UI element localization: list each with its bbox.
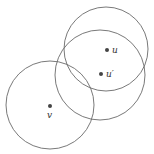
label-u-prime: u′ <box>106 69 114 79</box>
point-u-prime <box>99 72 103 76</box>
label-u: u <box>112 45 118 55</box>
diagram-canvas: u u′ v <box>0 0 154 154</box>
point-v <box>48 104 52 108</box>
label-v: v <box>47 110 52 120</box>
point-u <box>105 48 109 52</box>
